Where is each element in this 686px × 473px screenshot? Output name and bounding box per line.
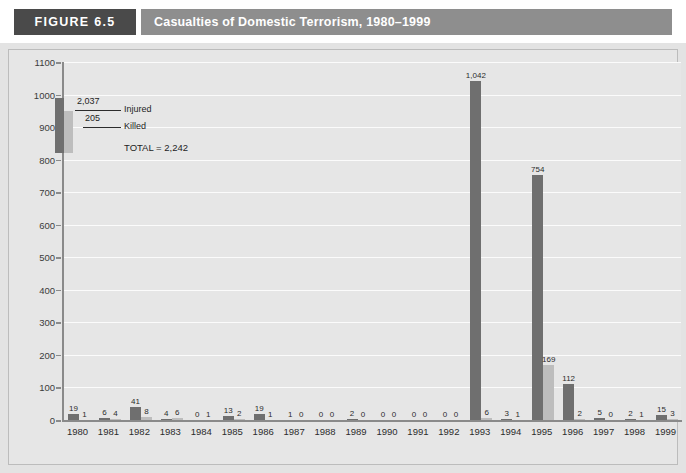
bar-value-killed-1996: 2	[577, 409, 581, 418]
y-tick-label: 600	[13, 219, 55, 230]
bar-injured-1993[interactable]	[470, 81, 481, 420]
legend-label-killed: Killed	[124, 121, 146, 131]
x-tick-label-1985: 1985	[222, 426, 243, 437]
bar-value-killed-1999: 3	[670, 409, 674, 418]
legend-label-injured: Injured	[124, 104, 152, 114]
bar-injured-1982[interactable]	[130, 407, 141, 420]
bar-group[interactable]: 00	[402, 62, 433, 420]
figure-number-label: FIGURE 6.5	[14, 9, 136, 35]
legend-leader-line-killed	[83, 127, 121, 128]
x-tick-label-1982: 1982	[129, 426, 150, 437]
y-tick-mark	[56, 290, 61, 292]
x-tick-label-1993: 1993	[469, 426, 490, 437]
bar-value-injured-1982: 41	[131, 397, 140, 406]
bar-value-killed-1994: 1	[516, 410, 520, 419]
bar-value-injured-1997: 5	[597, 408, 601, 417]
x-tick-label-1999: 1999	[655, 426, 676, 437]
y-tick-mark	[56, 420, 61, 422]
bar-value-killed-1992: 0	[454, 410, 458, 419]
y-tick-label: 400	[13, 284, 55, 295]
legend-value-killed: 205	[85, 113, 100, 123]
bar-value-killed-1991: 0	[423, 410, 427, 419]
x-tick-label-1991: 1991	[407, 426, 428, 437]
y-tick-label: 0	[13, 415, 55, 426]
bar-injured-1996[interactable]	[563, 384, 574, 420]
x-tick-label-1988: 1988	[314, 426, 335, 437]
bar-value-injured-1983: 4	[164, 409, 168, 418]
y-tick-label: 500	[13, 252, 55, 263]
bar-group[interactable]: 21	[619, 62, 650, 420]
bar-group[interactable]: 754169	[526, 62, 557, 420]
y-tick-mark	[56, 62, 61, 64]
bar-value-injured-1987: 1	[288, 410, 292, 419]
bar-group[interactable]: 00	[372, 62, 403, 420]
bar-value-killed-1980: 1	[82, 410, 86, 419]
x-tick-label-1992: 1992	[438, 426, 459, 437]
x-tick-label-1990: 1990	[376, 426, 397, 437]
bar-value-injured-1994: 3	[505, 409, 509, 418]
bar-group[interactable]: 1,0426	[464, 62, 495, 420]
y-tick-label: 100	[13, 382, 55, 393]
y-tick-label: 900	[13, 122, 55, 133]
bar-value-killed-1982: 8	[144, 407, 148, 416]
bar-value-injured-1985: 13	[224, 406, 233, 415]
y-tick-label: 1000	[13, 89, 55, 100]
bar-value-injured-1995: 754	[531, 165, 544, 174]
x-tick-label-1981: 1981	[98, 426, 119, 437]
bar-group[interactable]: 191	[248, 62, 279, 420]
bar-value-killed-1997: 0	[608, 410, 612, 419]
y-tick-label: 800	[13, 154, 55, 165]
y-tick-label: 700	[13, 187, 55, 198]
bar-value-injured-1986: 19	[255, 404, 264, 413]
bar-injured-1995[interactable]	[532, 175, 543, 420]
bar-value-killed-1984: 1	[206, 410, 210, 419]
y-tick-mark	[56, 225, 61, 227]
bar-group[interactable]: 00	[433, 62, 464, 420]
chart-legend: 2,037 Injured 205 Killed TOTAL = 2,242	[55, 98, 235, 168]
bar-value-injured-1980: 19	[69, 404, 78, 413]
bar-group[interactable]: 153	[650, 62, 681, 420]
bar-value-killed-1988: 0	[330, 410, 334, 419]
bar-group[interactable]: 20	[341, 62, 372, 420]
y-tick-label: 200	[13, 349, 55, 360]
x-axis-labels: 1980198119821983198419851986198719881989…	[62, 426, 682, 446]
legend-total-text: TOTAL = 2,242	[124, 142, 188, 153]
bar-value-injured-1981: 6	[102, 408, 106, 417]
y-axis-labels: 010020030040050060070080090010001100	[9, 50, 55, 464]
bar-killed-1995[interactable]	[543, 365, 554, 420]
bar-value-injured-1998: 2	[628, 409, 632, 418]
x-tick-label-1984: 1984	[191, 426, 212, 437]
bar-value-injured-1991: 0	[412, 410, 416, 419]
bar-value-killed-1989: 0	[361, 410, 365, 419]
y-tick-mark	[56, 387, 61, 389]
y-tick-mark	[56, 95, 61, 97]
x-tick-label-1989: 1989	[345, 426, 366, 437]
y-tick-label: 1100	[13, 57, 55, 68]
bar-value-killed-1986: 1	[268, 410, 272, 419]
bar-group[interactable]: 1122	[557, 62, 588, 420]
bar-value-injured-1989: 2	[350, 409, 354, 418]
bar-value-killed-1998: 1	[639, 410, 643, 419]
bar-group[interactable]: 00	[310, 62, 341, 420]
legend-leader-line-injured	[75, 110, 121, 111]
x-tick-label-1995: 1995	[531, 426, 552, 437]
bar-value-killed-1983: 6	[175, 408, 179, 417]
x-tick-label-1994: 1994	[500, 426, 521, 437]
bar-group[interactable]: 10	[279, 62, 310, 420]
y-tick-mark	[56, 257, 61, 259]
y-tick-mark	[56, 355, 61, 357]
x-tick-label-1980: 1980	[67, 426, 88, 437]
legend-value-injured: 2,037	[77, 96, 100, 106]
bar-group[interactable]: 31	[495, 62, 526, 420]
bar-value-killed-1995: 169	[542, 355, 555, 364]
bar-value-injured-1993: 1,042	[466, 71, 486, 80]
x-tick-label-1998: 1998	[624, 426, 645, 437]
bar-value-killed-1981: 4	[113, 409, 117, 418]
bar-value-injured-1984: 0	[195, 410, 199, 419]
chart-frame: 1916441846011321911000200000001,04263175…	[0, 43, 686, 473]
legend-swatch-killed	[64, 111, 73, 153]
bar-value-killed-1987: 0	[299, 410, 303, 419]
bar-group[interactable]: 50	[588, 62, 619, 420]
x-axis-line	[62, 420, 682, 422]
x-tick-label-1983: 1983	[160, 426, 181, 437]
